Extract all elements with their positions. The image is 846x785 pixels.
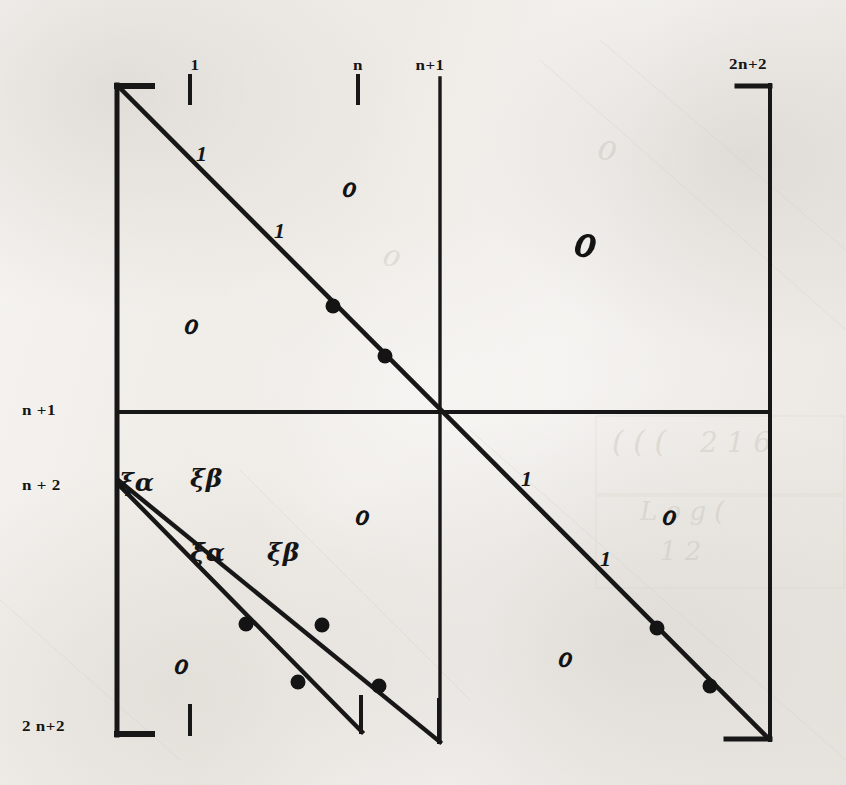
column-label-col-n1: n+1: [415, 59, 444, 73]
diagonal-dot: [291, 675, 306, 690]
column-label-col-2n2: 2n+2: [729, 58, 767, 72]
diagonal-dot: [372, 679, 387, 694]
diagram-vector-layer: [0, 0, 846, 785]
diagonal-dot: [378, 349, 393, 364]
index-tick-group: [190, 76, 358, 734]
diagonal-group: [118, 88, 766, 742]
row-label-row-n2: n + 2: [22, 479, 61, 493]
diagram-page: ℴ( ( (2 1 6ℴL o g (1 2: [0, 0, 846, 785]
matrix-entry-xi-alpha-upper: ξα: [119, 470, 155, 495]
matrix-entry-xi-beta-lower: ξβ: [267, 540, 300, 565]
diagonal-dot: [239, 617, 254, 632]
diagonal-entry-one: 1: [196, 143, 207, 165]
matrix-entry-xi-beta-upper: ξβ: [190, 466, 223, 491]
matrix-entry-xi-alpha-lower: ξα: [190, 540, 226, 565]
diagonal-dot: [315, 618, 330, 633]
diagonal-entry-one: 1: [521, 468, 532, 490]
diagonal-entry-one: 1: [274, 220, 285, 242]
sub-diagonal-lower: [118, 484, 362, 732]
diagonal-dot: [650, 621, 665, 636]
row-label-row-n1: n +1: [22, 404, 56, 418]
diagonal-dot: [326, 299, 341, 314]
column-label-col-1: 1: [191, 59, 200, 73]
sub-diagonal-upper: [118, 480, 440, 742]
row-label-row-2n2: 2 n+2: [22, 720, 65, 734]
diagonal-dot: [703, 679, 718, 694]
diagonal-entry-one: 1: [600, 548, 611, 570]
column-label-col-n: n: [353, 59, 363, 73]
